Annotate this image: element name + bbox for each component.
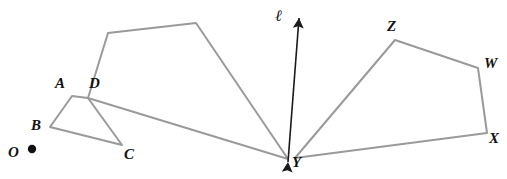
line-label-ell: ℓ [275, 8, 282, 24]
figure-canvas [0, 0, 507, 179]
vertex-label-b: B [31, 118, 41, 133]
line-of-reflection [288, 18, 299, 162]
quadrilateral-abcd [50, 96, 122, 145]
point-o-dot [28, 145, 36, 153]
vertex-label-c: C [124, 147, 134, 162]
quadrilateral-wxyz [295, 40, 487, 158]
vertex-label-y: Y [292, 155, 301, 170]
point-label-o: O [8, 145, 19, 160]
vertex-label-x: X [489, 131, 499, 146]
vertex-label-a: A [55, 76, 65, 91]
vertex-label-d: D [89, 76, 100, 91]
geometry-figure: ℓ O A B C D W X Y Z [0, 0, 507, 179]
vertex-label-w: W [484, 56, 497, 71]
vertex-label-z: Z [387, 19, 396, 34]
